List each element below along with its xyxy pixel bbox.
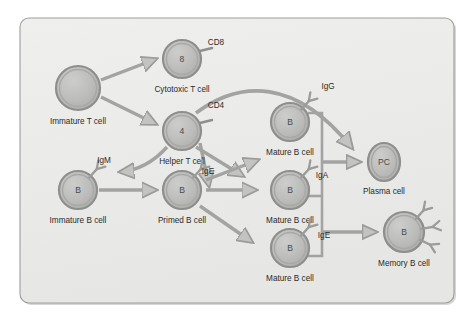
igm-label: IgM [97,156,111,165]
cell-caption: Immature B cell [50,216,107,225]
cell-caption: Immature T cell [50,117,106,126]
cell-letter: 4 [180,126,185,136]
cell-letter: B [75,185,81,195]
ige-primed-label: IgE [202,167,215,176]
cell-letter: B [401,227,407,237]
cell-caption: Cytotoxic T cell [154,85,209,94]
cell-body [56,66,100,110]
cell-caption: Memory B cell [378,259,430,268]
cd4-label: CD4 [208,101,225,110]
cell-letter: PC [378,157,390,167]
cell-helper-t-cell[interactable]: 4Helper T cell [159,112,205,166]
cell-caption: Mature B cell [266,148,314,157]
cell-letter: B [287,117,293,127]
lymphocyte-differentiation-figure: Immature T cell8Cytotoxic T cell4Helper … [0,0,476,322]
cell-letter: 8 [180,54,185,64]
iga-label: IgA [316,171,329,180]
cell-caption: Mature B cell [266,274,314,283]
cell-caption: Primed B cell [158,216,206,225]
cell-letter: B [287,185,293,195]
cell-caption: Plasma cell [363,187,405,196]
cell-caption: Helper T cell [159,157,205,166]
cell-letter: B [179,185,185,195]
igg-label: IgG [321,82,334,91]
diagram-canvas: Immature T cell8Cytotoxic T cell4Helper … [0,0,476,322]
cell-letter: B [287,243,293,253]
cd8-label: CD8 [208,38,225,47]
cell-caption: Mature B cell [266,216,314,225]
ige-mature-label: IgE [318,231,331,240]
